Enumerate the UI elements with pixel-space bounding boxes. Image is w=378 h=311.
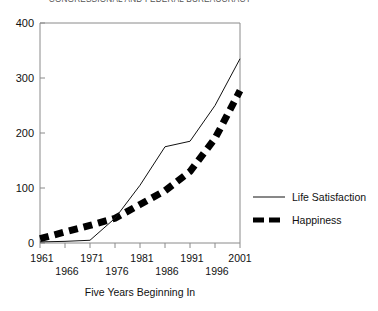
chart-plot-area: 0 100 200 300 400 1961 1966 1971 1976 19…	[0, 0, 378, 311]
x-tick-label-2001: 2001	[228, 252, 252, 264]
y-tick-label-3: 300	[16, 72, 34, 84]
x-tick-label-1971: 1971	[80, 252, 104, 264]
x-tick-label-1981: 1981	[130, 252, 154, 264]
y-tick-label-2: 200	[16, 127, 34, 139]
x-tick-label-1961: 1961	[30, 252, 54, 264]
legend-label-life-satisfaction: Life Satisfaction	[292, 191, 366, 203]
legend-label-happiness: Happiness	[292, 214, 342, 226]
y-tick-label-0: 0	[28, 237, 34, 249]
chart-figure: CONGRESSIONAL AND FEDERAL BUREAUCRACY 0 …	[0, 0, 378, 311]
x-tick-label-1991: 1991	[180, 252, 204, 264]
x-tick-label-1996: 1996	[205, 265, 229, 277]
y-tick-label-4: 400	[16, 17, 34, 29]
x-tick-label-1976: 1976	[105, 265, 129, 277]
x-tick-label-1966: 1966	[55, 265, 79, 277]
x-axis-title: Five Years Beginning In	[85, 286, 195, 298]
y-tick-label-1: 100	[16, 182, 34, 194]
x-tick-label-1986: 1986	[155, 265, 179, 277]
